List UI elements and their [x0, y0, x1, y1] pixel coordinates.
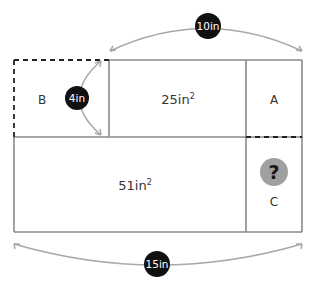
- top-width-badge: 10in: [195, 13, 221, 39]
- region-c-label: C: [270, 195, 278, 209]
- left-height-label: 4in: [69, 92, 85, 104]
- unknown-badge: ?: [260, 158, 288, 186]
- region-top-middle-area: 25in2: [161, 92, 195, 107]
- total-width-badge: 15in: [144, 251, 170, 277]
- total-width-label: 15in: [146, 258, 169, 270]
- region-bottom-left-area: 51in2: [118, 178, 152, 193]
- area-diagram: 10in 4in 15in B 25in2 A 51in2 ? C: [0, 0, 317, 292]
- region-b-dashed-outline: [14, 60, 109, 137]
- top-width-label: 10in: [197, 20, 220, 32]
- left-height-badge: 4in: [65, 86, 89, 110]
- rectangle-outlines: [14, 60, 302, 232]
- region-a-label: A: [270, 93, 279, 107]
- question-mark-icon: ?: [268, 161, 279, 183]
- region-b-label: B: [38, 93, 46, 107]
